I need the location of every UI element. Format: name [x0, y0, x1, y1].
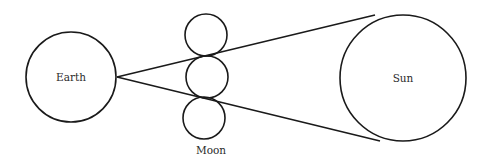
- moon-circle-middle: [186, 56, 228, 98]
- sun-label: Sun: [393, 72, 414, 84]
- upper-ray: [117, 15, 375, 77]
- earth-label: Earth: [56, 71, 86, 83]
- moon-label: Moon: [196, 144, 226, 156]
- moon-circle-top: [185, 14, 227, 56]
- earth-moon-sun-diagram: Earth Moon Sun: [0, 0, 491, 163]
- moon-circle-bottom: [183, 97, 225, 139]
